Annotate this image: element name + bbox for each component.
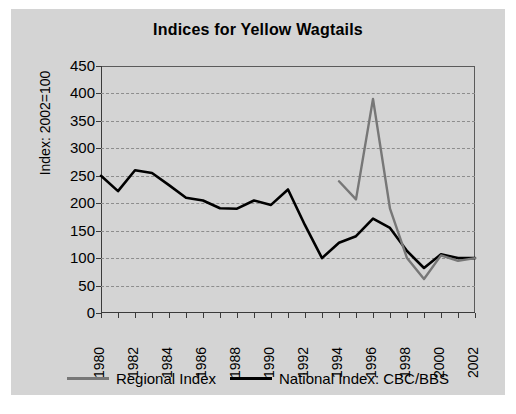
y-tick-label: 450 — [49, 58, 95, 73]
series-line-national-index — [101, 170, 475, 268]
chart-title: Indices for Yellow Wagtails — [11, 21, 505, 39]
x-axis-tick-labels: 1980198219841986198819901992199419961998… — [101, 318, 475, 378]
series-layer — [101, 66, 475, 313]
y-axis-tick-labels: 050100150200250300350400450 — [39, 66, 95, 313]
y-tick-label: 300 — [49, 140, 95, 155]
chart-legend: Regional Index National Index: CBC/BBS — [11, 370, 505, 387]
y-tick-label: 400 — [49, 85, 95, 100]
legend-label-national: National Index: CBC/BBS — [279, 370, 449, 387]
legend-item-national: National Index: CBC/BBS — [230, 370, 449, 387]
y-tick-label: 350 — [49, 113, 95, 128]
x-tick — [475, 313, 476, 318]
legend-label-regional: Regional Index — [116, 370, 216, 387]
y-tick-label: 0 — [49, 305, 95, 320]
legend-item-regional: Regional Index — [67, 370, 216, 387]
plot-area — [101, 66, 475, 313]
y-tick-label: 100 — [49, 250, 95, 265]
y-tick-label: 150 — [49, 223, 95, 238]
legend-swatch-national-icon — [230, 377, 272, 380]
chart-container: Indices for Yellow Wagtails Index: 2002=… — [11, 9, 505, 395]
y-tick-label: 250 — [49, 168, 95, 183]
y-tick-label: 200 — [49, 195, 95, 210]
legend-swatch-regional-icon — [67, 377, 109, 380]
y-tick-label: 50 — [49, 278, 95, 293]
